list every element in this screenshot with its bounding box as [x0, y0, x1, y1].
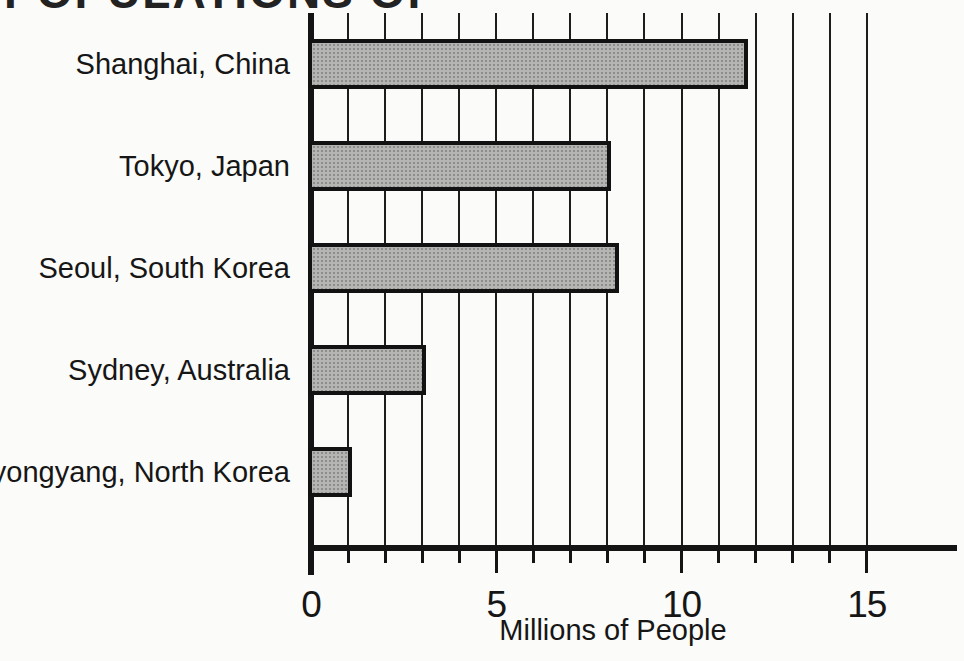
x-axis-line: [308, 545, 957, 551]
bar: [308, 141, 611, 191]
figure-title: POPULATIONS OF: [4, 0, 438, 15]
major-tick: [495, 551, 498, 573]
category-label: Tokyo, Japan: [119, 152, 290, 181]
minor-tick: [643, 551, 646, 563]
gridline: [643, 13, 645, 551]
gridline: [718, 13, 720, 551]
minor-tick: [717, 551, 720, 563]
gridline: [681, 13, 683, 551]
minor-tick: [532, 551, 535, 563]
minor-tick: [458, 551, 461, 563]
minor-tick: [421, 551, 424, 563]
minor-tick: [347, 551, 350, 563]
x-tick-label: 0: [301, 586, 321, 623]
category-label: Sydney, Australia: [68, 356, 290, 385]
category-label: Pyongyang, North Korea: [0, 458, 290, 487]
bar: [308, 345, 426, 395]
bar: [308, 447, 352, 497]
x-tick-label: 15: [847, 586, 886, 623]
minor-tick: [828, 551, 831, 563]
x-axis-label: Millions of People: [499, 616, 726, 645]
bar: [308, 243, 619, 293]
minor-tick: [384, 551, 387, 563]
category-label: Seoul, South Korea: [38, 254, 290, 283]
minor-tick: [754, 551, 757, 563]
gridline: [866, 13, 868, 551]
figure: POPULATIONS OF Shanghai, ChinaTokyo, Jap…: [0, 0, 964, 661]
major-tick: [680, 551, 683, 573]
gridline: [755, 13, 757, 551]
gridline: [829, 13, 831, 551]
major-tick: [865, 551, 868, 573]
minor-tick: [791, 551, 794, 563]
minor-tick: [569, 551, 572, 563]
minor-tick: [606, 551, 609, 563]
category-label: Shanghai, China: [76, 50, 290, 79]
gridline: [792, 13, 794, 551]
bar: [308, 39, 748, 89]
